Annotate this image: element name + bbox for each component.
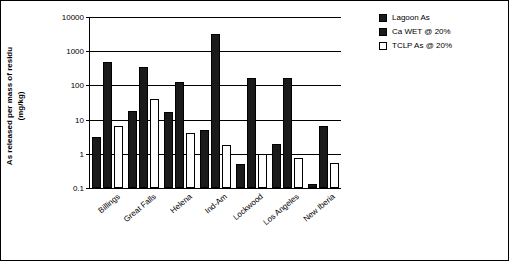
y-axis-title-line1: As released per mass of residu xyxy=(5,47,14,165)
legend-item: TCLP As @ 20% xyxy=(379,41,452,50)
legend-label: Ca WET @ 20% xyxy=(392,27,451,36)
legend-swatch-icon xyxy=(379,14,387,22)
y-axis-tick-label: 100 xyxy=(71,81,84,90)
bar-ca-wet-20 xyxy=(283,78,292,188)
y-axis-tick-label: 1 xyxy=(80,149,84,158)
bar-tclp-as-20 xyxy=(222,145,231,188)
bar-tclp-as-20 xyxy=(186,133,195,189)
legend-swatch-icon xyxy=(379,42,387,50)
legend-label: TCLP As @ 20% xyxy=(392,41,452,50)
plot-area: 0.1110100100010000BillingsGreat FallsHel… xyxy=(89,17,341,189)
bar-lagoon-as xyxy=(92,137,101,188)
legend-label: Lagoon As xyxy=(392,13,430,22)
bar-lagoon-as xyxy=(236,164,245,188)
legend-item: Ca WET @ 20% xyxy=(379,27,452,36)
bar-ca-wet-20 xyxy=(139,67,148,188)
bar-ca-wet-20 xyxy=(211,34,220,188)
x-axis-category-label: Helena xyxy=(168,192,193,215)
bar-group: Helena xyxy=(162,17,198,188)
bar-tclp-as-20 xyxy=(330,163,339,188)
bar-lagoon-as xyxy=(128,111,137,188)
chart-figure: As released per mass of residu (mg/kg) 0… xyxy=(0,0,509,261)
bar-lagoon-as xyxy=(272,144,281,188)
legend: Lagoon AsCa WET @ 20%TCLP As @ 20% xyxy=(379,13,452,55)
bar-lagoon-as xyxy=(164,112,173,188)
bar-group: New Iberia xyxy=(305,17,341,188)
bar-group: Billings xyxy=(90,17,126,188)
x-axis-category-label: Billings xyxy=(97,192,122,215)
bar-group: Los Angeles xyxy=(269,17,305,188)
legend-item: Lagoon As xyxy=(379,13,452,22)
bar-ca-wet-20 xyxy=(319,126,328,188)
x-axis-category-label: Los Angeles xyxy=(262,192,301,227)
bar-tclp-as-20 xyxy=(258,154,267,188)
y-axis-title: As released per mass of residu (mg/kg) xyxy=(3,11,27,201)
y-axis-tick xyxy=(86,188,90,189)
x-axis-category-label: Great Falls xyxy=(122,192,158,224)
y-axis-title-line2: (mg/kg) xyxy=(16,92,25,121)
bar-ca-wet-20 xyxy=(247,78,256,188)
bar-tclp-as-20 xyxy=(150,99,159,188)
bar-group: Great Falls xyxy=(126,17,162,188)
bar-ca-wet-20 xyxy=(103,62,112,188)
y-axis-tick-label: 10 xyxy=(75,115,84,124)
bar-group: Lockwood xyxy=(233,17,269,188)
bar-tclp-as-20 xyxy=(294,158,303,188)
y-axis-tick-label: 0.1 xyxy=(73,184,84,193)
plot-inner: 0.1110100100010000BillingsGreat FallsHel… xyxy=(90,17,341,188)
y-axis-tick-label: 10000 xyxy=(62,13,84,22)
bar-lagoon-as xyxy=(308,184,317,188)
x-axis-category-label: New Iberia xyxy=(302,192,337,223)
y-axis-tick-label: 1000 xyxy=(66,47,84,56)
legend-swatch-icon xyxy=(379,28,387,36)
x-axis-category-label: Lockwood xyxy=(232,192,265,222)
bar-lagoon-as xyxy=(200,130,209,188)
bar-ca-wet-20 xyxy=(175,82,184,188)
bar-tclp-as-20 xyxy=(114,126,123,188)
bar-group: Ind-Am xyxy=(198,17,234,188)
x-axis-category-label: Ind-Am xyxy=(204,192,230,215)
